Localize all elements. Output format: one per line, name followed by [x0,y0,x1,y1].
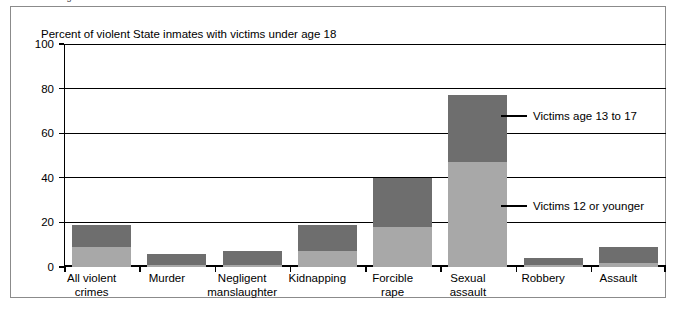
x-axis-label: Assault [577,272,660,286]
bar-segment-victims-12-or-younger [223,265,282,267]
bar-segment-victims-13-to-17 [72,225,131,247]
x-axis-label: Murder [125,272,208,286]
y-tick-label-100: 100 [14,38,54,50]
bar [599,247,658,267]
y-tick-label-60: 60 [14,127,54,139]
legend-item-victims-13-to-17: Victims age 13 to 17 [501,110,637,122]
bar-segment-victims-12-or-younger [599,263,658,267]
x-axis-label: Sexual assault [426,272,509,299]
bar-segment-victims-12-or-younger [147,265,206,267]
bar-segment-victims-13-to-17 [147,254,206,265]
bar [147,254,206,267]
bar-group [64,44,666,267]
cut-off-headline: among inmates convicted of sexual assaul… [44,0,604,3]
x-axis-label: Kidnapping [276,272,359,286]
x-axis-label: Negligent manslaughter [201,272,284,299]
x-tick-mark [664,267,666,272]
figure-box: Percent of violent State inmates with vi… [10,6,666,298]
bar-segment-victims-13-to-17 [373,178,432,227]
legend-label: Victims age 13 to 17 [533,110,637,122]
legend-leader-line [501,115,527,117]
bar-segment-victims-12-or-younger [373,227,432,267]
x-axis-label: All violent crimes [50,272,133,299]
y-tick-label-20: 20 [14,216,54,228]
bar-segment-victims-12-or-younger [72,247,131,267]
plot-area: 020406080100 [64,44,666,267]
bar-segment-victims-13-to-17 [524,258,583,265]
chart-axis-title: Percent of violent State inmates with vi… [41,28,336,40]
legend-item-victims-12-or-younger: Victims 12 or younger [501,200,644,212]
bar [373,178,432,267]
x-axis-label: Robbery [502,272,585,286]
bar [72,225,131,267]
legend-label: Victims 12 or younger [533,200,644,212]
bar [223,251,282,267]
legend-leader-line [501,205,527,207]
y-tick-label-40: 40 [14,172,54,184]
x-axis-label: Forcible rape [351,272,434,299]
bar-segment-victims-13-to-17 [599,247,658,263]
bar-segment-victims-13-to-17 [448,95,507,162]
bar-segment-victims-12-or-younger [524,265,583,267]
bar-segment-victims-13-to-17 [298,225,357,252]
bar [524,258,583,267]
bar [448,95,507,267]
y-tick-label-0: 0 [14,261,54,273]
bar-segment-victims-12-or-younger [448,162,507,267]
bar-segment-victims-13-to-17 [223,251,282,264]
bar [298,225,357,267]
y-tick-label-80: 80 [14,83,54,95]
figure-page: among inmates convicted of sexual assaul… [0,0,676,310]
bar-segment-victims-12-or-younger [298,251,357,267]
